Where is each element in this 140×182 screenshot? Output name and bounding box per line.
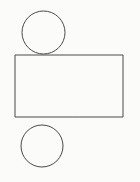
rectangle-middle <box>15 55 123 117</box>
circle-top <box>22 11 65 54</box>
geometric-figure <box>0 0 140 182</box>
circle-bottom <box>21 125 63 167</box>
drawing-canvas <box>0 0 140 182</box>
